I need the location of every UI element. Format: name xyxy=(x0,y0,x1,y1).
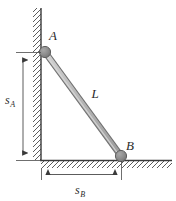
label-rod-length: L xyxy=(90,86,98,101)
label-node-b: B xyxy=(126,138,134,153)
wall-support xyxy=(33,8,41,161)
rod-mechanics-diagram: A B L sA sB xyxy=(0,0,176,201)
rod-ab xyxy=(44,52,121,157)
ground-hatching xyxy=(41,161,172,168)
rod-body xyxy=(45,52,121,156)
figure-container: A B L sA sB xyxy=(0,0,176,201)
node-a-joint xyxy=(39,46,50,57)
label-node-a: A xyxy=(48,28,57,43)
wall-hatching xyxy=(33,8,41,160)
rod-highlight xyxy=(44,53,120,157)
label-s-a: sA xyxy=(5,93,15,109)
node-b-joint xyxy=(115,150,126,161)
ground-support xyxy=(40,161,172,169)
label-s-b: sB xyxy=(75,183,85,199)
